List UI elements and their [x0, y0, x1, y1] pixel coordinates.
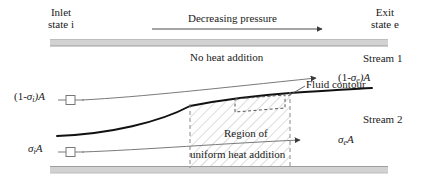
exit-area-upper-label: (1-σe)A: [338, 71, 370, 86]
region-label-line1: Region of: [224, 127, 268, 139]
inlet-state-label: Inlet state i: [28, 6, 94, 31]
exit-area-upper-pre: (1-: [338, 71, 351, 83]
stream2-label: Stream 2: [363, 113, 402, 125]
figure-canvas: Inlet state i Exit state e Decreasing pr…: [0, 0, 422, 189]
exit-state-label: Exit state e: [352, 6, 418, 31]
inlet-area-upper-post: )A: [34, 90, 44, 102]
inlet-area-upper-pre: (1-: [14, 90, 27, 102]
stream1-label: Stream 1: [363, 52, 402, 64]
inlet-area-lower-post: A: [36, 142, 43, 154]
decreasing-pressure-label: Decreasing pressure: [188, 12, 277, 24]
top-wall: [50, 39, 388, 46]
inlet-area-upper-label: (1-σi)A: [14, 90, 45, 105]
inlet-marker-lower: [58, 148, 84, 157]
exit-area-upper-post: )A: [360, 71, 370, 83]
region-label-line2: uniform heat addition: [190, 148, 285, 160]
inlet-marker-upper: [58, 96, 84, 105]
bottom-wall: [50, 166, 388, 173]
exit-area-lower-post: A: [347, 133, 354, 145]
no-heat-addition-label: No heat addition: [190, 51, 263, 63]
exit-area-lower-label: σeA: [338, 133, 354, 148]
inlet-area-lower-label: σiA: [28, 142, 42, 157]
